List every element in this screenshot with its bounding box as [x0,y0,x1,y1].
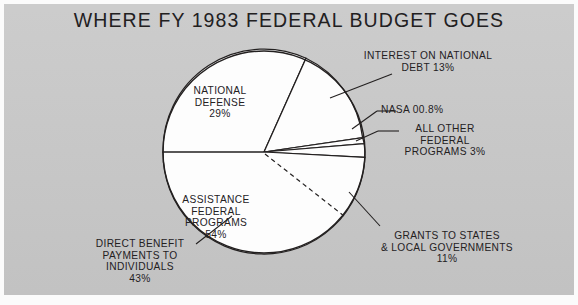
label-interest-on-national-debt: INTEREST ON NATIONAL DEBT 13% [346,50,510,73]
label-direct-benefit-payments: DIRECT BENEFIT PAYMENTS TO INDIVIDUALS 4… [66,238,214,284]
label-nasa: NASA 00.8% [381,104,491,116]
figure-canvas: WHERE FY 1983 FEDERAL BUDGET GOES [0,0,578,305]
label-grants-to-states: GRANTS TO STATES & LOCAL GOVERNMENTS 11% [356,230,538,265]
label-all-other-federal-programs: ALL OTHER FEDERAL PROGRAMS 3% [381,123,509,158]
leader-line-grants [349,192,380,226]
label-national-defense: NATIONAL DEFENSE 29% [170,85,270,120]
label-assistance-federal-programs: ASSISTANCE FEDERAL PROGRAMS 54% [160,194,272,240]
